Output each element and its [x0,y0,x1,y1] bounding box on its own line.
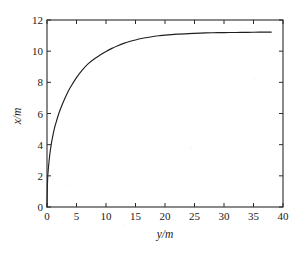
x-tick-label: 10 [101,210,113,222]
x-tick-label: 0 [44,210,50,222]
x-tick-label: 35 [248,210,260,222]
y-tick-label: 8 [38,76,44,88]
y-tick-label: 12 [32,14,43,26]
x-tick-label: 20 [160,210,172,222]
line-chart: 0510152025303540 024681012 y/m x/m [0,0,303,256]
y-tick-label: 4 [38,139,44,151]
x-tick-label: 25 [189,210,201,222]
x-tick-label: 40 [278,210,290,222]
y-tick-label: 0 [38,201,44,213]
y-axis-title: x/m [11,108,23,126]
x-tick-label: 15 [130,210,142,222]
plot-area-background [47,20,283,207]
y-tick-label: 6 [38,108,44,120]
x-tick-label: 5 [74,210,80,222]
y-tick-label: 2 [38,170,44,182]
x-tick-label: 30 [219,210,231,222]
x-axis-title: y/m [156,228,174,241]
y-tick-label: 10 [32,45,44,57]
figure-container: 0510152025303540 024681012 y/m x/m [0,0,303,256]
